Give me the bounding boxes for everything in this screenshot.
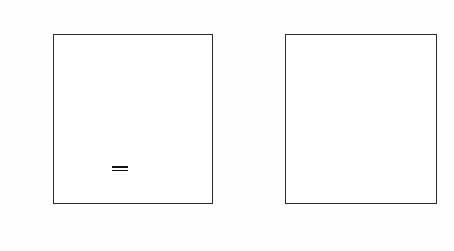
figure-container <box>0 0 454 251</box>
panel-b-data <box>0 0 454 251</box>
